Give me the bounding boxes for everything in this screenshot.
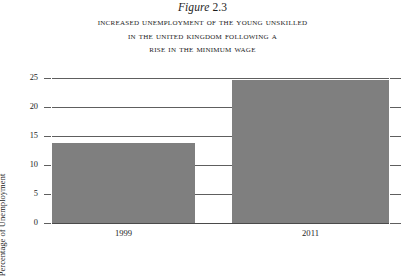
x-tick-label: 1999: [52, 229, 195, 238]
y-tick-mark: [44, 136, 51, 137]
y-tick-label: 20: [14, 103, 38, 111]
y-tick-mark: [390, 223, 401, 224]
y-tick-mark: [390, 194, 401, 195]
y-tick-mark: [390, 78, 401, 79]
y-tick-mark: [44, 78, 51, 79]
plot-area: Percentage of Unemployment 0510152025 19…: [52, 78, 389, 223]
y-tick-mark: [390, 136, 401, 137]
x-tick-label: 2011: [232, 229, 389, 238]
y-tick-mark: [44, 107, 51, 108]
y-tick-label: 15: [14, 132, 38, 140]
y-tick-label: 5: [14, 190, 38, 198]
bar: [232, 80, 389, 223]
y-tick-label: 25: [14, 74, 38, 82]
y-tick-mark: [390, 107, 401, 108]
y-axis-label: Percentage of Unemployment: [0, 150, 7, 280]
y-tick-mark: [390, 165, 401, 166]
axis-baseline: [52, 223, 389, 224]
y-tick-mark: [44, 223, 51, 224]
y-tick-label: 10: [14, 161, 38, 169]
bar: [52, 143, 195, 223]
y-tick-mark: [44, 194, 51, 195]
y-tick-mark: [44, 165, 51, 166]
y-tick-label: 0: [14, 219, 38, 227]
